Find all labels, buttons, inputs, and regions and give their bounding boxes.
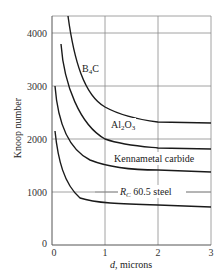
x-axis-title: d, microns <box>110 259 152 270</box>
x-tick-0: 0 <box>52 247 57 258</box>
y-tick-1000: 1000 <box>27 187 47 198</box>
y-tick-2000: 2000 <box>27 134 47 145</box>
y-tick-4000: 4000 <box>27 28 47 39</box>
x-tick-labels: 0 1 2 3 <box>52 247 214 258</box>
x-axis-unit: , microns <box>115 259 152 270</box>
label-kennametal: Kennametal carbide <box>114 153 195 164</box>
y-tick-3000: 3000 <box>27 81 47 92</box>
y-axis-title: Knoop number <box>12 97 23 158</box>
label-steel-main: R <box>119 186 126 197</box>
knoop-hardness-chart: 4000 3000 2000 1000 0 0 1 2 3 d, microns… <box>0 0 224 278</box>
x-tick-1: 1 <box>103 247 108 258</box>
curves <box>55 16 211 207</box>
label-b4c: B4C <box>82 63 99 76</box>
label-al2o3-a: Al <box>111 119 121 130</box>
label-al2o3-s2: 3 <box>132 124 136 132</box>
label-al2o3-b: O <box>125 119 132 130</box>
y-tick-labels: 4000 3000 2000 1000 0 <box>27 28 47 250</box>
y-tick-0: 0 <box>42 238 47 249</box>
label-steel-tail: 60.5 steel <box>131 186 172 197</box>
x-tick-3: 3 <box>209 247 214 258</box>
label-b4c-tail: C <box>92 63 99 74</box>
x-tick-2: 2 <box>156 247 161 258</box>
curve-al2o3 <box>61 44 211 149</box>
